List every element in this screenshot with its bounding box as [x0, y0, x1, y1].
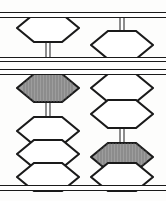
- frame-bar-top-rail: [0, 12, 166, 18]
- frame-bar-upper-reckoning-rail: [0, 57, 166, 62]
- rod-left[interactable]: [8, 0, 88, 201]
- frame-bar-bottom-rail: [0, 185, 166, 191]
- rod-right-upper-bead[interactable]: [90, 30, 154, 60]
- rod-left-lower-bead-1[interactable]: [16, 73, 80, 103]
- rod-right-lower-bead-2[interactable]: [90, 99, 154, 129]
- rod-right[interactable]: [82, 0, 162, 201]
- abacus-figure: [0, 0, 166, 201]
- frame-bar-lower-reckoning-rail: [0, 69, 166, 75]
